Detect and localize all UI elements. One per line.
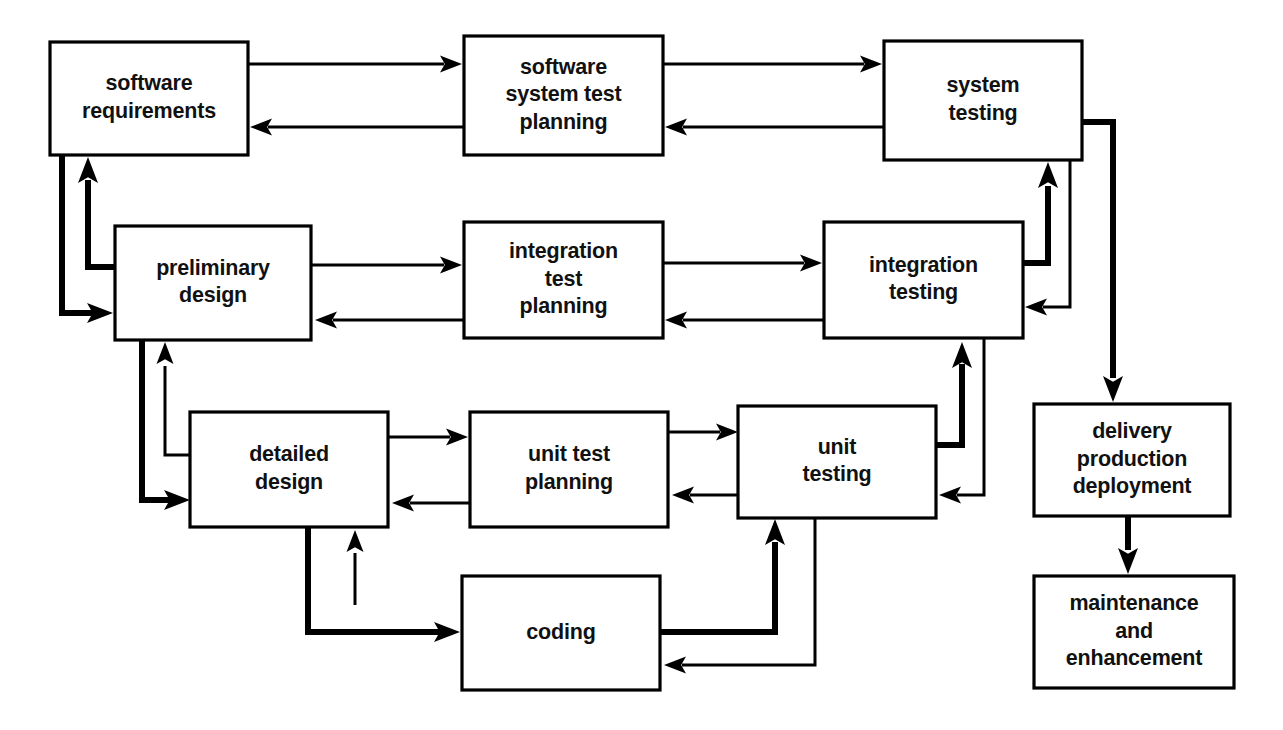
edge-line: [142, 340, 172, 500]
edge-line: [165, 366, 190, 455]
node-label-line: software: [106, 71, 193, 95]
edge-preliminary-design-to-req: [78, 157, 115, 267]
node-label-line: production: [1077, 447, 1187, 471]
node-label-line: design: [179, 283, 247, 307]
arrowhead-icon: [765, 519, 785, 545]
edge-line: [1023, 186, 1048, 263]
nodes-layer: softwarerequirementssoftwaresystem testp…: [50, 36, 1234, 690]
edge-line: [308, 527, 442, 632]
node-label-line: planning: [520, 110, 608, 134]
node-unit-test-planning[interactable]: unit testplanning: [470, 412, 668, 527]
node-integration-test-planning[interactable]: integrationtestplanning: [464, 222, 663, 338]
node-label-line: system: [947, 73, 1020, 97]
arrowhead-icon: [157, 342, 174, 364]
node-software-requirements[interactable]: softwarerequirements: [50, 42, 248, 155]
edge-line: [660, 542, 775, 632]
edge-system-testing-to-sys-test-planning: [665, 119, 884, 136]
edge-unit-test-planning-to-unit-testing: [668, 424, 738, 441]
node-label-line: planning: [525, 470, 613, 494]
edge-int-test-planning-to-preliminary-design: [315, 312, 464, 329]
node-label-line: deployment: [1073, 474, 1192, 498]
edge-int-test-planning-to-int-testing: [663, 255, 822, 272]
edge-int-testing-to-system-testing: [1023, 162, 1058, 263]
node-label-line: testing: [889, 280, 958, 304]
node-label-line: integration: [509, 239, 618, 263]
edge-system-testing-to-delivery: [1082, 122, 1123, 402]
arrowhead-icon: [1118, 548, 1138, 574]
arrowhead-icon: [1038, 162, 1058, 188]
edge-line: [936, 364, 962, 445]
node-label-line: enhancement: [1066, 646, 1202, 670]
node-unit-testing[interactable]: unittesting: [738, 406, 936, 518]
edge-sys-test-planning-to-req: [250, 119, 464, 136]
node-label-line: planning: [520, 294, 608, 318]
node-label-line: test: [545, 267, 582, 291]
node-label-line: detailed: [249, 442, 329, 466]
edge-delivery-to-maintenance: [1118, 516, 1138, 574]
edge-unit-testing-to-int-testing: [936, 342, 972, 445]
edge-sys-test-planning-to-system-testing: [663, 56, 882, 73]
node-label-line: unit test: [528, 442, 610, 466]
node-coding[interactable]: coding: [462, 576, 660, 690]
arrowhead-icon: [1103, 376, 1123, 402]
node-label-line: delivery: [1092, 419, 1172, 443]
edge-coding-to-detailed-design: [347, 530, 364, 605]
node-label-line: and: [1115, 619, 1153, 643]
edge-detailed-design-to-unit-test-planning: [388, 429, 468, 446]
edge-req-to-sys-test-planning: [248, 56, 462, 73]
node-label-line: requirements: [82, 99, 216, 123]
node-delivery-production-deployment[interactable]: deliveryproductiondeployment: [1034, 404, 1230, 516]
node-label-line: integration: [869, 253, 978, 277]
node-label-line: design: [255, 470, 323, 494]
edge-unit-testing-to-unit-test-planning: [672, 487, 738, 504]
node-label-line: maintenance: [1069, 591, 1198, 615]
node-detailed-design[interactable]: detaileddesign: [190, 412, 388, 527]
edge-int-testing-to-int-test-planning: [665, 312, 824, 329]
node-label-line: coding: [526, 620, 595, 644]
arrowhead-icon: [78, 157, 98, 183]
arrowhead-icon: [347, 530, 364, 552]
diagram-canvas: softwarerequirementssoftwaresystem testp…: [0, 0, 1283, 730]
node-preliminary-design[interactable]: preliminarydesign: [115, 226, 311, 340]
edge-line: [88, 180, 115, 267]
node-integration-testing[interactable]: integrationtesting: [824, 222, 1023, 338]
node-label-line: preliminary: [156, 256, 270, 280]
edge-detailed-design-to-coding: [308, 527, 460, 642]
node-label-line: testing: [948, 101, 1017, 125]
edge-unit-testing-to-coding: [664, 518, 815, 674]
node-label-line: system test: [505, 82, 621, 106]
edge-line: [682, 518, 815, 665]
node-software-system-test-planning[interactable]: softwaresystem testplanning: [464, 36, 663, 155]
node-label-line: unit: [818, 435, 857, 459]
edge-preliminary-design-to-int-test-planning: [311, 257, 462, 274]
node-label-line: testing: [802, 462, 871, 486]
edge-line: [1082, 122, 1113, 378]
node-label-line: software: [520, 55, 607, 79]
edge-detailed-design-to-preliminary-design: [157, 342, 191, 455]
node-maintenance-and-enhancement[interactable]: maintenanceandenhancement: [1034, 576, 1234, 688]
edge-unit-test-planning-to-detailed-design: [392, 495, 470, 512]
edge-coding-to-unit-testing: [660, 519, 785, 632]
v-model-diagram: softwarerequirementssoftwaresystem testp…: [0, 0, 1283, 730]
node-system-testing[interactable]: systemtesting: [884, 41, 1082, 160]
